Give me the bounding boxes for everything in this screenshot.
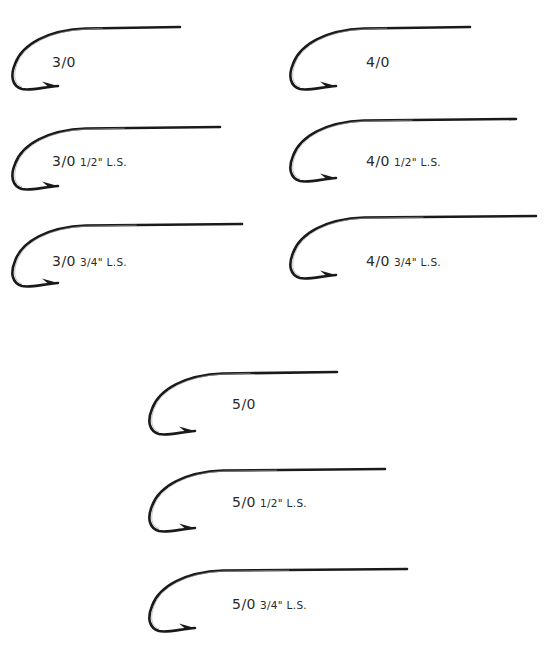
shank-extension: 1/2" L.S.: [260, 497, 307, 509]
hook-label-3-0: 3/0: [52, 52, 76, 71]
hook-label-4-0-12: 4/01/2" L.S.: [366, 151, 441, 170]
barb-icon: [42, 182, 58, 187]
hook-label-4-0: 4/0: [366, 52, 390, 71]
hook-size: 5/0: [232, 494, 256, 510]
hook-size: 3/0: [52, 54, 76, 70]
hook-drawing: [8, 223, 252, 303]
shank-extension: 1/2" L.S.: [394, 156, 441, 168]
hook-size: 4/0: [366, 253, 390, 269]
hook-label-3-0-34: 3/03/4" L.S.: [52, 251, 127, 270]
hook-size: 4/0: [366, 54, 390, 70]
hook-size: 3/0: [52, 253, 76, 269]
barb-icon: [179, 524, 195, 529]
barb-icon: [320, 82, 336, 87]
hook-size: 4/0: [366, 153, 390, 169]
hook-drawing: [8, 26, 190, 106]
shank-extension: 3/4" L.S.: [394, 256, 441, 268]
hook-size: 5/0: [232, 396, 256, 412]
barb-icon: [42, 279, 58, 284]
shank-extension: 1/2" L.S.: [80, 156, 127, 168]
hook-size: 3/0: [52, 153, 76, 169]
hook-label-5-0-34: 5/03/4" L.S.: [232, 594, 307, 613]
barb-icon: [320, 271, 336, 276]
hook-label-5-0-12: 5/01/2" L.S.: [232, 492, 307, 511]
shank-extension: 3/4" L.S.: [260, 599, 307, 611]
hook-label-4-0-34: 4/03/4" L.S.: [366, 251, 441, 270]
hook-label-5-0: 5/0: [232, 394, 256, 413]
barb-icon: [320, 174, 336, 179]
barb-icon: [179, 624, 195, 629]
hook-label-3-0-12: 3/01/2" L.S.: [52, 151, 127, 170]
shank-extension: 3/4" L.S.: [80, 256, 127, 268]
barb-icon: [42, 82, 58, 87]
hook-size: 5/0: [232, 596, 256, 612]
barb-icon: [179, 427, 195, 432]
